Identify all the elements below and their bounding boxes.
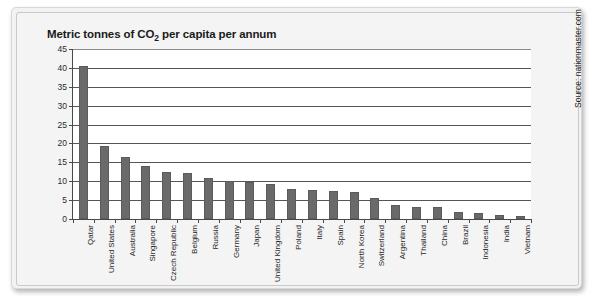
y-axis-tick-label: 0 [62,214,67,224]
x-axis-tick-label: Qatar [86,201,95,223]
source-note: Source: nationmaster.com [573,9,583,108]
x-axis-tick-label: Argentina [398,187,407,223]
x-axis-tick-label: India [502,204,511,223]
chart-figure: Metric tonnes of CO2 per capita per annu… [0,0,603,307]
x-axis-tick-label: Thailand [419,190,428,223]
x-axis-tick-label: Switzerland [377,180,386,223]
x-axis-tick-label: North Korea [357,178,366,223]
y-axis-tick-label: 5 [62,195,67,205]
y-axis-tick-label: 30 [58,101,67,111]
x-axis-tick-label: Belgium [190,192,199,223]
y-axis-tick-label: 20 [58,138,67,148]
x-axis-tick-label: Poland [294,196,303,223]
x-axis-tick-label: Singapore [148,185,157,223]
bar [79,66,88,219]
chart-title-prefix: Metric tonnes of CO [47,28,154,40]
chart-title-suffix: per capita per annum [159,28,276,40]
chart-title: Metric tonnes of CO2 per capita per annu… [47,28,276,40]
y-axis-tick-label: 40 [58,63,67,73]
x-axis-tick-label: Japan [252,199,261,223]
x-axis-tick-label: Vietnam [523,192,532,223]
x-axis-tick-label: Indonesia [481,186,490,223]
x-axis-tick-label: United Kingdom [273,164,282,223]
x-axis-tick-label: Spain [336,201,345,223]
bar-series [73,49,531,219]
plot-area: 051015202530354045 [72,49,531,220]
chart-title-subscript: 2 [154,33,159,43]
chart-card-inner: Metric tonnes of CO2 per capita per annu… [16,12,579,286]
chart-card: Metric tonnes of CO2 per capita per annu… [11,7,582,289]
x-axis-tick-label: Italy [315,206,324,223]
x-axis-tick-label: Brazil [461,201,470,223]
x-axis-tick-label: United States [107,173,116,223]
y-axis-tick-label: 35 [58,82,67,92]
x-axis-tick-label: China [440,200,449,223]
y-axis-tick-label: 25 [58,120,67,130]
y-axis-tick-label: 15 [58,157,67,167]
y-axis-tick-label: 10 [58,176,67,186]
x-axis-tick-label: Germany [232,188,241,223]
y-axis-tick-label: 45 [58,44,67,54]
x-axis-tick-label: Australia [128,190,137,223]
x-axis-tick-label: Czech Republic [169,165,178,223]
x-axis-tick-label: Russia [211,197,220,223]
x-axis-labels: QatarUnited StatesAustraliaSingaporeCzec… [72,223,530,285]
